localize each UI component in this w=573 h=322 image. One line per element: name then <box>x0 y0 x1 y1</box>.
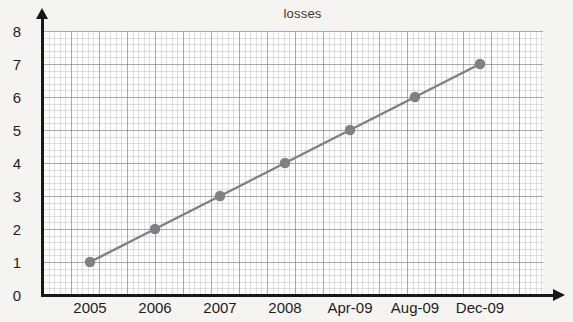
data-point-dec-09 <box>475 59 485 69</box>
data-point-2005 <box>85 257 95 267</box>
data-point-2007 <box>215 191 225 201</box>
series-layer <box>0 0 573 322</box>
data-point-2008 <box>280 158 290 168</box>
data-point-apr-09 <box>345 125 355 135</box>
line-chart: losses 0 1 2 3 4 5 6 7 8 2005 2006 2007 … <box>0 0 573 322</box>
data-point-aug-09 <box>410 92 420 102</box>
series-markers <box>85 59 485 267</box>
data-point-2006 <box>150 224 160 234</box>
